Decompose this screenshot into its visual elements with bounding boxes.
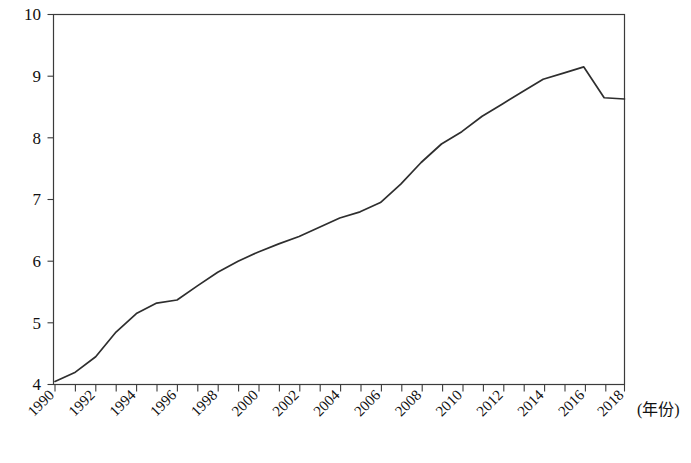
- data-series-line: [55, 67, 625, 382]
- x-axis-ticks: [55, 385, 625, 392]
- x-axis-tick-labels: 1990 1992 1994 1996 1998 2000 2002 2004 …: [25, 386, 627, 419]
- y-tick-label-6: 6: [33, 252, 42, 271]
- y-tick-label-10: 10: [24, 5, 41, 24]
- x-tick-label-2002: 2002: [269, 387, 302, 420]
- x-tick-label-2012: 2012: [473, 387, 506, 420]
- x-tick-label-2016: 2016: [555, 386, 588, 419]
- x-tick-label-2006: 2006: [351, 386, 384, 419]
- y-axis-tick-labels: 10 9 8 7 6 5 4: [24, 5, 42, 394]
- y-tick-label-8: 8: [33, 129, 42, 148]
- line-chart-figure: 10 9 8 7 6 5 4: [0, 0, 691, 463]
- x-tick-label-2010: 2010: [433, 387, 466, 420]
- x-tick-label-1996: 1996: [147, 386, 180, 419]
- x-tick-label-2018: 2018: [594, 387, 627, 420]
- y-tick-label-9: 9: [33, 67, 42, 86]
- chart-canvas: 10 9 8 7 6 5 4: [0, 0, 691, 463]
- x-tick-label-2008: 2008: [392, 387, 425, 420]
- x-tick-label-1992: 1992: [65, 387, 98, 420]
- x-tick-label-1990: 1990: [25, 387, 58, 420]
- y-tick-label-7: 7: [33, 190, 42, 209]
- y-axis-ticks: [48, 15, 54, 385]
- x-tick-label-1998: 1998: [188, 387, 221, 420]
- x-tick-label-2014: 2014: [514, 386, 547, 419]
- x-axis-title: (年份): [637, 401, 680, 419]
- y-tick-label-5: 5: [33, 314, 42, 333]
- plot-frame: [54, 15, 625, 385]
- x-tick-label-2000: 2000: [229, 387, 262, 420]
- x-tick-label-1994: 1994: [106, 386, 139, 419]
- x-tick-label-2004: 2004: [310, 386, 343, 419]
